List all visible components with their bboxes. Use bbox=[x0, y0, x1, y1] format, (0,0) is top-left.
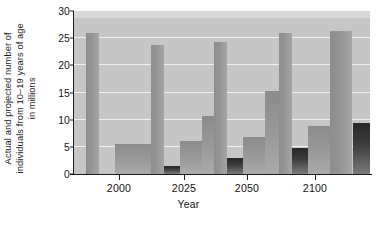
bar-2050-tall bbox=[214, 42, 227, 174]
y-tick-label-15: 15 bbox=[44, 87, 70, 98]
bar-2100-short-dark bbox=[353, 123, 370, 174]
y-tick-label-30: 30 bbox=[44, 6, 70, 17]
y-tick-label-25: 25 bbox=[44, 33, 70, 44]
plot-area bbox=[74, 11, 370, 174]
y-axis-title-line-2: individuals from 10–19 years of age bbox=[14, 23, 26, 173]
figure-bar-chart: Actual and projected number of individua… bbox=[0, 0, 377, 229]
x-axis-title: Year bbox=[0, 199, 377, 210]
bar-2025-tall bbox=[151, 45, 164, 174]
x-tick-mark-2050 bbox=[247, 175, 248, 180]
x-axis-line bbox=[70, 174, 372, 175]
y-axis-title-line-1: Actual and projected number of bbox=[2, 23, 14, 173]
x-tick-label-2000: 2000 bbox=[107, 182, 131, 194]
y-axis-title-line-3: in millions bbox=[26, 23, 38, 173]
y-axis-title: Actual and projected number of individua… bbox=[0, 0, 40, 196]
y-tick-label-10: 10 bbox=[44, 114, 70, 125]
y-tick-label-20: 20 bbox=[44, 60, 70, 71]
y-axis-ticks: 051015202530 bbox=[40, 0, 70, 196]
bar-2100-mid-b bbox=[330, 31, 352, 174]
bar-2100-tall bbox=[279, 33, 292, 174]
bar-2025-mid-a bbox=[180, 141, 202, 174]
x-tick-label-2100: 2100 bbox=[303, 182, 327, 194]
x-tick-label-2025: 2025 bbox=[172, 182, 196, 194]
plot-top-band bbox=[74, 11, 370, 18]
gridline-25 bbox=[74, 37, 370, 38]
bar-2000-mid-a bbox=[115, 144, 137, 174]
bar-2050-mid-a bbox=[243, 137, 265, 174]
x-tick-mark-2025 bbox=[184, 175, 185, 180]
bar-2025-short-dark bbox=[225, 158, 245, 174]
x-tick-mark-2000 bbox=[119, 175, 120, 180]
bar-2000-tall bbox=[86, 33, 99, 174]
x-tick-mark-2100 bbox=[315, 175, 316, 180]
x-tick-label-2050: 2050 bbox=[235, 182, 259, 194]
y-tick-label-5: 5 bbox=[44, 141, 70, 152]
bar-2100-mid-a bbox=[308, 126, 330, 174]
y-tick-label-0: 0 bbox=[44, 169, 70, 180]
caption-sliver bbox=[6, 221, 96, 227]
